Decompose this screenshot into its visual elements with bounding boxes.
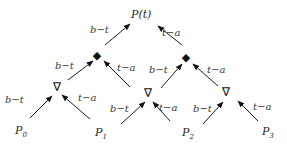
- edge-arrow-p0-to-l1a: [30, 96, 52, 118]
- level1-node-c: ∇: [221, 85, 231, 99]
- edge-weight-label: b−t: [149, 64, 169, 75]
- edge-weight-label: t−a: [159, 102, 177, 113]
- edge-weight-label: b−t: [90, 24, 110, 35]
- edge-weight-label: t−a: [253, 101, 271, 112]
- level2-node-a: ◆: [93, 49, 102, 62]
- edge-weight-label: b−t: [110, 103, 130, 114]
- root-label: P(t): [130, 8, 151, 21]
- edge-labels-layer: b−tt−ab−tt−ab−tt−ab−tt−ab−tt−ab−tt−a: [5, 24, 271, 114]
- control-point-p1: P1: [94, 126, 107, 141]
- edge-weight-label: t−a: [207, 64, 225, 75]
- edge-weight-label: t−a: [78, 92, 96, 103]
- level1-node-a: ∇: [52, 80, 62, 94]
- edge-weight-label: b−t: [193, 103, 213, 114]
- level1-node-b: ∇: [143, 86, 153, 100]
- edge-weight-label: t−a: [117, 62, 135, 73]
- edge-weight-label: b−t: [5, 94, 25, 105]
- edge-weight-label: b−t: [55, 60, 75, 71]
- control-point-p0: P0: [14, 124, 27, 139]
- level2-node-b: ◆: [182, 51, 191, 64]
- control-point-p2: P2: [181, 126, 194, 141]
- edge-weight-label: t−a: [162, 27, 180, 38]
- pyramid-diagram: b−tt−ab−tt−ab−tt−ab−tt−ab−tt−ab−tt−a P(t…: [0, 0, 287, 147]
- control-point-p3: P3: [261, 125, 274, 140]
